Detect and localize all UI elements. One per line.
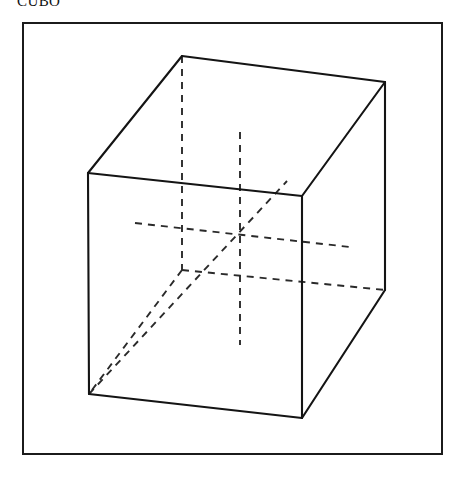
cube-diagram <box>0 0 457 477</box>
axis-horizontal-dashed <box>135 223 350 247</box>
axis-depth-diagonal-dashed <box>89 181 287 394</box>
edge-right-bottom <box>302 290 385 418</box>
hidden-edge-back-bottom-left <box>89 270 182 394</box>
hidden-edge-back-bottom-right <box>182 270 385 290</box>
edge-front-left-vertical <box>88 173 89 394</box>
figure-page: CUBO <box>0 0 457 477</box>
edge-front-bottom <box>89 394 302 418</box>
